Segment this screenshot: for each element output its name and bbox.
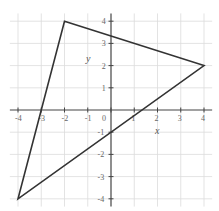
coordinate-plane: -4-3-2-101234-4-3-2-11234 x y (0, 0, 219, 211)
y-tick-label: -2 (98, 150, 105, 159)
y-tick-label: 3 (102, 39, 106, 48)
x-tick-label: -2 (62, 114, 69, 123)
y-tick-label: -4 (98, 195, 105, 204)
x-tick-label: 2 (155, 114, 159, 123)
x-axis-label: x (154, 125, 160, 136)
x-tick-label: 4 (201, 114, 205, 123)
x-tick-label: 0 (102, 114, 106, 123)
x-tick-label: 3 (178, 114, 182, 123)
y-tick-label: 4 (102, 17, 106, 26)
x-tick-label: -1 (85, 114, 92, 123)
y-axis-label: y (85, 53, 91, 64)
y-tick-label: -1 (98, 128, 105, 137)
x-tick-label: -4 (15, 114, 22, 123)
y-tick-label: -3 (98, 173, 105, 182)
y-tick-label: 2 (102, 62, 106, 71)
y-tick-label: 1 (102, 84, 106, 93)
axes (10, 13, 212, 206)
